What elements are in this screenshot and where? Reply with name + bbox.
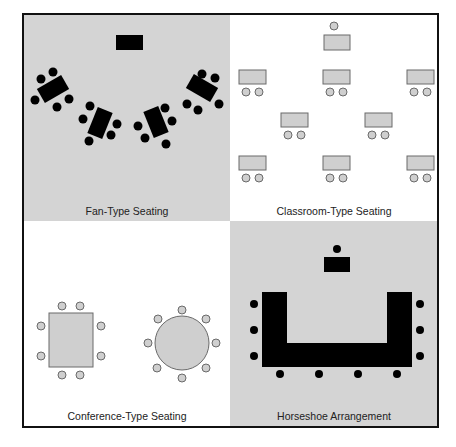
chair-icon: [194, 106, 203, 115]
chair-icon: [76, 302, 84, 310]
chair-icon: [141, 134, 150, 143]
chair-icon: [144, 339, 152, 347]
chair-icon: [168, 117, 177, 126]
classroom-type-seating-label: Classroom-Type Seating: [277, 205, 392, 217]
chair-icon: [37, 352, 45, 360]
chair-icon: [97, 322, 105, 330]
chair-icon: [49, 68, 58, 77]
student-chair-icon: [410, 88, 418, 96]
presenter-table-icon: [324, 257, 350, 272]
presenter-table-icon: [116, 35, 143, 50]
chair-icon: [211, 74, 220, 83]
chair-icon: [183, 100, 192, 109]
chair-icon: [79, 115, 88, 124]
student-chair-icon: [410, 174, 418, 182]
chair-icon: [162, 140, 171, 149]
student-chair-icon: [326, 88, 334, 96]
chair-icon: [31, 96, 40, 105]
student-chair-icon: [326, 174, 334, 182]
chair-icon: [354, 370, 362, 378]
rectangular-table-icon: [49, 313, 93, 367]
chair-icon: [86, 102, 95, 111]
student-chair-icon: [242, 88, 250, 96]
student-chair-icon: [255, 174, 263, 182]
chair-icon: [97, 352, 105, 360]
chair-icon: [416, 300, 424, 308]
chair-icon: [276, 370, 284, 378]
chair-icon: [153, 364, 161, 372]
chair-icon: [198, 70, 207, 79]
student-chair-icon: [339, 174, 347, 182]
student-chair-icon: [381, 131, 389, 139]
chair-icon: [202, 364, 210, 372]
chair-icon: [416, 326, 424, 334]
chair-icon: [250, 326, 258, 334]
chair-icon: [65, 95, 74, 104]
student-desk-icon: [323, 156, 350, 170]
chair-icon: [202, 315, 210, 323]
horseshoe-arrangement-label: Horseshoe Arrangement: [277, 410, 391, 422]
student-desk-icon: [407, 70, 434, 84]
student-desk-icon: [323, 70, 350, 84]
round-table-icon: [155, 316, 209, 370]
chair-icon: [76, 371, 84, 379]
chair-icon: [178, 306, 186, 314]
chair-icon: [212, 339, 220, 347]
presenter-chair-icon: [333, 245, 341, 253]
chair-icon: [416, 352, 424, 360]
chair-icon: [250, 352, 258, 360]
teacher-desk-icon: [324, 35, 350, 50]
chair-icon: [134, 122, 143, 131]
student-desk-icon: [281, 113, 308, 127]
chair-icon: [250, 300, 258, 308]
student-chair-icon: [368, 131, 376, 139]
chair-icon: [58, 302, 66, 310]
chair-icon: [178, 374, 186, 382]
conference-type-seating-label: Conference-Type Seating: [67, 410, 186, 422]
chair-icon: [58, 371, 66, 379]
chair-icon: [393, 370, 401, 378]
student-chair-icon: [423, 174, 431, 182]
student-chair-icon: [423, 88, 431, 96]
student-desk-icon: [365, 113, 392, 127]
chair-icon: [215, 100, 224, 109]
student-chair-icon: [339, 88, 347, 96]
fan-type-seating-label: Fan-Type Seating: [86, 205, 169, 217]
student-chair-icon: [242, 174, 250, 182]
chair-icon: [107, 131, 116, 140]
student-chair-icon: [297, 131, 305, 139]
chair-icon: [154, 315, 162, 323]
student-desk-icon: [239, 156, 266, 170]
chair-icon: [37, 322, 45, 330]
student-desk-icon: [407, 156, 434, 170]
chair-icon: [161, 104, 170, 113]
chair-icon: [53, 103, 62, 112]
chair-icon: [37, 75, 46, 84]
student-chair-icon: [255, 88, 263, 96]
student-chair-icon: [284, 131, 292, 139]
student-desk-icon: [239, 70, 266, 84]
teacher-chair-icon: [330, 22, 338, 30]
chair-icon: [85, 137, 94, 146]
seating-arrangements-diagram: Fan-Type Seating Classroom-Type Seating …: [0, 0, 456, 447]
chair-icon: [315, 370, 323, 378]
chair-icon: [113, 120, 122, 129]
